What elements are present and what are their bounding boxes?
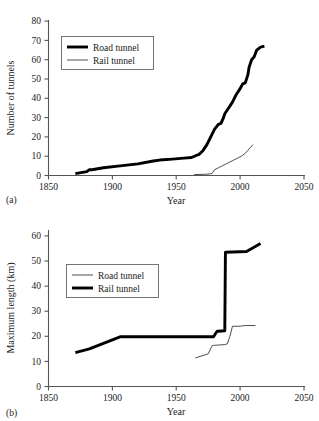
x-tick-label: 1950	[167, 182, 186, 192]
y-tick-labels-a: 0 10 20 30 40 50 60 70 80	[32, 16, 42, 180]
x-tick-label: 2050	[295, 393, 314, 403]
chart-panel-a: 0 10 20 30 40 50 60 70 80 1850 1	[0, 0, 319, 210]
y-ticks-a	[45, 21, 49, 175]
x-tick-label: 2000	[231, 393, 250, 403]
y-tick-label: 70	[32, 36, 42, 46]
y-tick-label: 80	[32, 16, 42, 26]
y-tick-label: 60	[32, 55, 42, 65]
legend-label-rail-tunnel-b: Rail tunnel	[98, 284, 140, 294]
y-tick-label: 30	[32, 306, 42, 316]
y-tick-labels-b: 0 10 20 30 40 50 60	[32, 231, 42, 392]
legend-label-road-tunnel-b: Road tunnel	[98, 271, 145, 281]
legend-label-road-tunnel-a: Road tunnel	[93, 43, 140, 53]
series-line-rail-tunnel-b	[75, 243, 260, 352]
x-tick-label: 1900	[103, 393, 122, 403]
x-tick-labels-a: 1850 1900 1950 2000 2050	[39, 182, 314, 192]
x-tick-labels-b: 1850 1900 1950 2000 2050	[39, 393, 314, 403]
x-axis-title-a: Year	[167, 195, 186, 206]
y-tick-label: 20	[32, 132, 42, 142]
y-tick-label: 50	[32, 74, 42, 84]
legend-label-rail-tunnel-a: Rail tunnel	[93, 56, 135, 66]
x-tick-label: 1850	[39, 393, 58, 403]
y-axis-title-a: Number of tunnels	[5, 60, 16, 135]
y-tick-label: 40	[32, 93, 42, 103]
x-tick-label: 2050	[295, 182, 314, 192]
y-tick-label: 20	[32, 331, 42, 341]
x-axis-title-b: Year	[167, 406, 186, 417]
y-tick-label: 0	[36, 171, 41, 181]
figure-container: 0 10 20 30 40 50 60 70 80 1850 1	[0, 0, 319, 421]
y-tick-label: 30	[32, 113, 42, 123]
y-tick-label: 0	[36, 382, 41, 392]
panel-label-b: (b)	[6, 408, 17, 419]
y-tick-label: 60	[32, 231, 42, 241]
y-tick-label: 40	[32, 281, 42, 291]
x-ticks-b	[49, 387, 305, 391]
panel-label-a: (a)	[6, 195, 17, 206]
x-tick-label: 1950	[167, 393, 186, 403]
y-axis-title-b: Maximum length (km)	[5, 262, 17, 353]
x-tick-label: 1850	[39, 182, 58, 192]
y-tick-label: 50	[32, 256, 42, 266]
y-tick-label: 10	[32, 151, 42, 161]
x-tick-label: 1900	[103, 182, 122, 192]
chart-panel-b: 0 10 20 30 40 50 60 1850 1900 1950 2000	[0, 206, 319, 421]
legend-b: Road tunnel Rail tunnel	[67, 265, 159, 298]
chart-b-svg: 0 10 20 30 40 50 60 1850 1900 1950 2000	[0, 206, 319, 421]
y-ticks-b	[45, 236, 49, 387]
x-tick-label: 2000	[231, 182, 250, 192]
chart-a-svg: 0 10 20 30 40 50 60 70 80 1850 1	[0, 0, 319, 210]
y-tick-label: 10	[32, 357, 42, 367]
legend-a: Road tunnel Rail tunnel	[62, 37, 154, 70]
x-ticks-a	[49, 176, 305, 180]
